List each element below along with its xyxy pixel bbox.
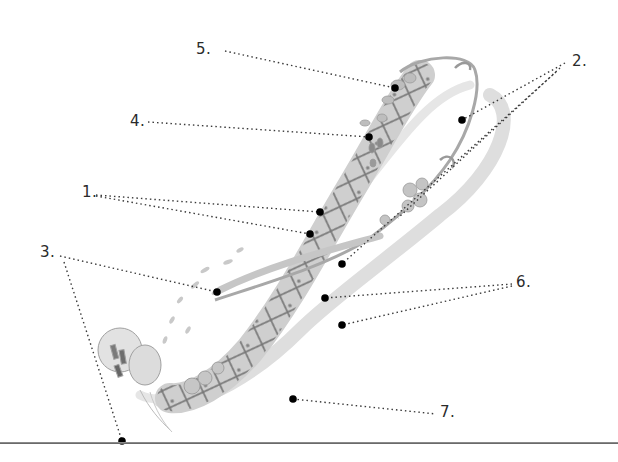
dot-1b: [306, 230, 314, 238]
callout-label-6: 6.: [516, 273, 531, 291]
bottom-divider: [0, 442, 618, 444]
scattered-petals: [155, 246, 244, 364]
bottom-knot: [98, 328, 224, 432]
dot-3a: [213, 288, 221, 296]
callout-label-3: 3.: [40, 243, 55, 261]
dot-6b: [338, 321, 346, 329]
dot-7: [289, 395, 297, 403]
flower-cluster-middle: [380, 178, 428, 225]
dot-1a: [316, 208, 324, 216]
dot-6a: [321, 294, 329, 302]
callout-label-1: 1.: [82, 183, 97, 201]
ribbon-illustration: [0, 0, 618, 462]
diagram-figure: 1. 2. 3. 4. 5. 6. 7.: [0, 0, 618, 462]
callout-label-2: 2.: [572, 52, 587, 70]
dot-5: [391, 84, 399, 92]
dot-2b: [338, 260, 346, 268]
callout-label-4: 4.: [130, 112, 145, 130]
dot-4: [365, 133, 373, 141]
callout-label-5: 5.: [196, 40, 211, 58]
dot-2a: [458, 116, 466, 124]
callout-label-7: 7.: [440, 403, 455, 421]
